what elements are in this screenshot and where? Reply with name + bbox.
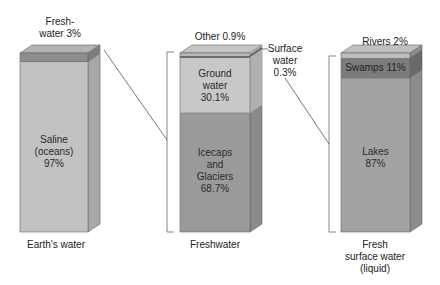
leader-line-surface-water <box>285 78 329 144</box>
label-saline: Saline (oceans) 97% <box>20 134 88 170</box>
label-line: water <box>264 55 306 67</box>
label-line: and <box>180 159 250 171</box>
label-line: water <box>180 80 250 92</box>
label-line: 0.3% <box>264 67 306 79</box>
label-line: water 3% <box>30 28 90 40</box>
bracket-surface-water <box>329 56 336 232</box>
column1-side-face <box>88 45 100 232</box>
segment-freshwater <box>20 53 88 62</box>
label-line: 87% <box>341 158 410 170</box>
label-swamps: Swamps 11% <box>341 62 410 74</box>
label-icecaps-glaciers: Icecaps and Glaciers 68.7% <box>180 147 250 195</box>
caption-fresh-surface-water: Fresh surface water (liquid) <box>330 239 420 275</box>
caption-earths-water: Earth's water <box>20 239 92 251</box>
bracket-freshwater <box>167 52 174 232</box>
column2-top-face <box>180 45 262 53</box>
segment-surface-water <box>180 56 250 58</box>
leader-line-freshwater <box>104 50 167 140</box>
label-line: (oceans) <box>20 146 88 158</box>
label-line: Lakes <box>341 146 410 158</box>
label-line: Glaciers <box>180 171 250 183</box>
label-line: (liquid) <box>330 263 420 275</box>
label-line: Ground <box>180 68 250 80</box>
label-line: 68.7% <box>180 183 250 195</box>
label-line: 30.1% <box>180 92 250 104</box>
segment-rivers <box>341 53 410 58</box>
label-ground-water: Ground water 30.1% <box>180 68 250 104</box>
label-freshwater-3: Fresh- water 3% <box>30 16 90 40</box>
label-line: Fresh <box>330 239 420 251</box>
column1-top-face <box>20 45 100 53</box>
label-other: Other 0.9% <box>180 31 260 43</box>
label-rivers: Rivers 2% <box>350 36 420 48</box>
label-line: Surface <box>264 43 306 55</box>
segment-other <box>180 53 250 56</box>
caption-freshwater: Freshwater <box>180 239 250 251</box>
label-line: Fresh- <box>30 16 90 28</box>
label-line: Saline <box>20 134 88 146</box>
label-line: Icecaps <box>180 147 250 159</box>
label-lakes: Lakes 87% <box>341 146 410 170</box>
label-line: 97% <box>20 158 88 170</box>
label-line: surface water <box>330 251 420 263</box>
label-surface-water: Surface water 0.3% <box>264 43 306 79</box>
